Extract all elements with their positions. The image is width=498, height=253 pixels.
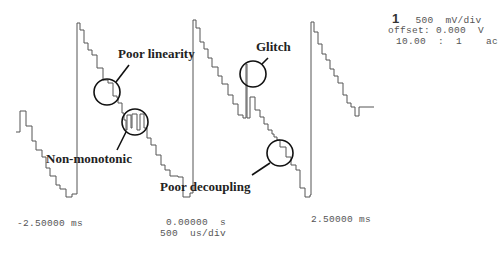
poor-linearity-circle (94, 79, 120, 105)
annotation-poor-linearity: Poor linearity (118, 46, 195, 62)
poor-decoupling-leader (252, 163, 270, 175)
timebase-label: 500 us/div (160, 228, 226, 239)
time-center-label: 0.00000 s (166, 217, 226, 228)
poor-linearity-leader (116, 65, 129, 82)
annotation-poor-decoupling: Poor decoupling (160, 179, 250, 195)
non-monotonic-leader (117, 132, 126, 150)
poor-decoupling-circle (267, 140, 293, 166)
non-monotonic-circle (122, 109, 148, 135)
channel-number: 1 (392, 11, 400, 26)
glitch-leader (262, 58, 268, 64)
annotation-glitch: Glitch (256, 39, 291, 55)
annotation-non-monotonic: Non-monotonic (46, 151, 132, 167)
channel-scale-row: 1500 mV/div (392, 11, 482, 26)
glitch-circle (240, 61, 266, 87)
time-left-label: -2.50000 ms (17, 218, 83, 229)
channel-offset: offset: 0.000 V (388, 25, 484, 36)
probe-coupling: 10.00 : 1 ac (396, 36, 498, 47)
time-right-label: 2.50000 ms (311, 214, 371, 225)
